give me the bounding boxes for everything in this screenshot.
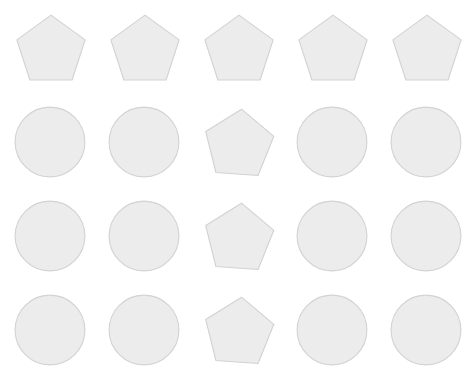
- shape-cell-r2c3: [202, 106, 276, 180]
- shape-cell-r3c2: [108, 200, 180, 272]
- pentagon-icon: [202, 106, 276, 180]
- shape-cell-r3c1: [14, 200, 86, 272]
- pentagon-icon: [108, 12, 182, 86]
- circle-shape: [15, 107, 85, 177]
- circle-shape: [15, 201, 85, 271]
- circle-icon: [296, 294, 368, 366]
- shape-cell-r3c5: [390, 200, 462, 272]
- circle-shape: [109, 107, 179, 177]
- shape-cell-r1c1: [14, 12, 88, 86]
- shape-cell-r3c3: [202, 200, 276, 274]
- pentagon-shape: [206, 297, 274, 363]
- circle-shape: [391, 295, 461, 365]
- shape-grid-canvas: [0, 0, 472, 389]
- shape-cell-r4c3: [202, 294, 276, 368]
- circle-icon: [108, 200, 180, 272]
- circle-shape: [391, 107, 461, 177]
- shape-cell-r1c5: [390, 12, 464, 86]
- circle-shape: [109, 295, 179, 365]
- circle-shape: [297, 201, 367, 271]
- pentagon-shape: [17, 15, 85, 80]
- pentagon-shape: [393, 15, 461, 80]
- shape-cell-r4c4: [296, 294, 368, 366]
- circle-icon: [390, 294, 462, 366]
- circle-shape: [109, 201, 179, 271]
- pentagon-icon: [390, 12, 464, 86]
- shape-cell-r1c3: [202, 12, 276, 86]
- shape-grid-layer: [0, 0, 472, 389]
- pentagon-icon: [14, 12, 88, 86]
- circle-icon: [14, 200, 86, 272]
- shape-cell-r2c1: [14, 106, 86, 178]
- pentagon-shape: [299, 15, 367, 80]
- circle-icon: [108, 106, 180, 178]
- pentagon-icon: [202, 12, 276, 86]
- circle-shape: [15, 295, 85, 365]
- pentagon-shape: [206, 109, 274, 175]
- circle-icon: [296, 106, 368, 178]
- pentagon-icon: [202, 200, 276, 274]
- circle-shape: [391, 201, 461, 271]
- shape-cell-r4c5: [390, 294, 462, 366]
- circle-icon: [390, 106, 462, 178]
- circle-icon: [14, 106, 86, 178]
- shape-cell-r3c4: [296, 200, 368, 272]
- circle-icon: [108, 294, 180, 366]
- shape-cell-r1c4: [296, 12, 370, 86]
- pentagon-icon: [296, 12, 370, 86]
- pentagon-icon: [202, 294, 276, 368]
- shape-cell-r4c2: [108, 294, 180, 366]
- shape-cell-r4c1: [14, 294, 86, 366]
- shape-cell-r1c2: [108, 12, 182, 86]
- shape-cell-r2c2: [108, 106, 180, 178]
- circle-icon: [14, 294, 86, 366]
- pentagon-shape: [111, 15, 179, 80]
- shape-cell-r2c5: [390, 106, 462, 178]
- circle-shape: [297, 107, 367, 177]
- pentagon-shape: [206, 203, 274, 269]
- pentagon-shape: [205, 15, 273, 80]
- circle-shape: [297, 295, 367, 365]
- shape-cell-r2c4: [296, 106, 368, 178]
- circle-icon: [296, 200, 368, 272]
- circle-icon: [390, 200, 462, 272]
